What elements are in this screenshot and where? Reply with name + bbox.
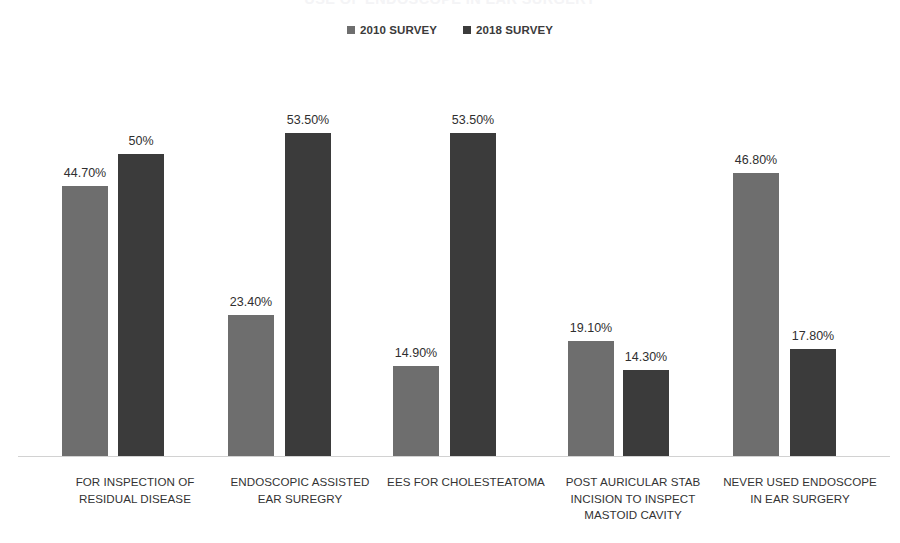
- bar-value-label: 46.80%: [716, 153, 796, 167]
- bar-value-label: 50%: [101, 134, 181, 148]
- bar-2018-group-1[interactable]: [118, 154, 164, 456]
- bar-value-label: 19.10%: [551, 321, 631, 335]
- plot-area: 44.70%23.40%14.90%19.10%46.80%50%53.50%5…: [0, 0, 900, 543]
- x-axis-line: [18, 456, 890, 457]
- bar-value-label: 17.80%: [773, 329, 853, 343]
- bar-2010-group-1[interactable]: [62, 186, 108, 456]
- bar-2010-group-5[interactable]: [733, 173, 779, 456]
- bar-2018-group-5[interactable]: [790, 349, 836, 456]
- bar-2018-group-3[interactable]: [450, 133, 496, 456]
- bar-value-label: 53.50%: [268, 113, 348, 127]
- bar-2010-group-2[interactable]: [228, 315, 274, 456]
- bar-value-label: 44.70%: [45, 166, 125, 180]
- bar-2010-group-3[interactable]: [393, 366, 439, 456]
- category-label-line: MASTOID CAVITY: [533, 507, 733, 524]
- bar-2018-group-4[interactable]: [623, 370, 669, 456]
- bar-chart: USE OF ENDOSCOPE IN EAR SURGERY 2010 SUR…: [0, 0, 900, 543]
- bar-2018-group-2[interactable]: [285, 133, 331, 456]
- bar-value-label: 14.30%: [606, 350, 686, 364]
- category-label-5: NEVER USED ENDOSCOPEIN EAR SURGERY: [700, 474, 900, 507]
- bar-value-label: 14.90%: [376, 346, 456, 360]
- category-label-line: IN EAR SURGERY: [700, 491, 900, 508]
- category-label-line: EAR SUREGRY: [188, 491, 413, 508]
- category-label-line: NEVER USED ENDOSCOPE: [700, 474, 900, 491]
- bar-value-label: 23.40%: [211, 295, 291, 309]
- bar-value-label: 53.50%: [433, 113, 513, 127]
